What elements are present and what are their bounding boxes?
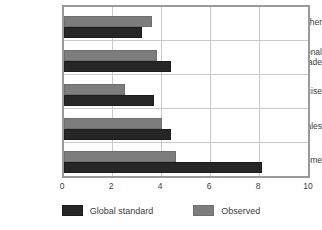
x-tick-4: 4	[150, 181, 170, 191]
x-tick-10: 10	[298, 181, 318, 191]
legend-swatch-global-standard	[62, 205, 83, 216]
bar-observed-international-trade	[64, 50, 157, 61]
bar-global-standard-international-trade	[64, 61, 171, 72]
bar-global-standard-excise	[64, 95, 154, 106]
legend-label-global-standard: Global standard	[90, 206, 154, 216]
bar-observed-income	[64, 151, 176, 162]
bar-global-standard-sales	[64, 129, 171, 140]
x-tick-2: 2	[101, 181, 121, 191]
legend-item-observed: Observed	[193, 205, 260, 216]
x-tick-0: 0	[52, 181, 72, 191]
chart-legend: Global standard Observed	[0, 205, 322, 216]
bar-observed-sales	[64, 118, 162, 129]
bar-global-standard-income	[64, 162, 262, 173]
bars-layer	[64, 7, 308, 176]
legend-label-observed: Observed	[221, 206, 260, 216]
bar-observed-excise	[64, 84, 125, 95]
plot-area	[62, 5, 310, 178]
x-tick-6: 6	[199, 181, 219, 191]
legend-swatch-observed	[193, 205, 214, 216]
x-tick-8: 8	[248, 181, 268, 191]
bar-observed-other	[64, 16, 152, 27]
legend-item-global-standard: Global standard	[62, 205, 154, 216]
bar-global-standard-other	[64, 27, 142, 38]
bar-chart: Other International Trade Excise Sales I…	[0, 0, 322, 230]
